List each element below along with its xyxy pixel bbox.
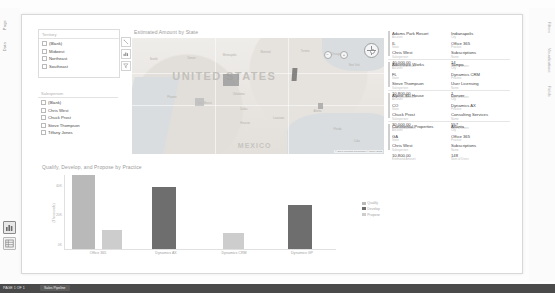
slicer-item[interactable]: Northeast (42, 56, 116, 61)
chart-bar-group: Dynamics GP (268, 175, 336, 249)
map-title: Estimated Amount by State (134, 29, 198, 35)
field-city: Denver City (451, 93, 510, 102)
legend-item[interactable]: Propose (362, 213, 380, 217)
slicer-item[interactable]: Southeast (42, 64, 116, 69)
field-city: Tampa City (451, 62, 510, 71)
field-account: Adventure Works Account (392, 62, 451, 71)
field-practice: Dynamics CRM Practice (451, 72, 510, 81)
pane-tab-fields[interactable]: Fields (540, 86, 552, 97)
focus-mode-icon[interactable] (121, 37, 131, 47)
chart-icon[interactable] (121, 49, 131, 59)
map-place-label: Cuba (354, 140, 360, 143)
slicer-item[interactable]: Chuck Prost (41, 115, 115, 120)
map-canvas[interactable]: UNITED STATES MEXICO Seattle Denver Minn… (132, 38, 384, 154)
rail-tab-data[interactable]: Data (2, 42, 16, 51)
checkbox-icon[interactable] (41, 100, 46, 105)
map-compass-icon[interactable] (364, 43, 379, 58)
slicer-item[interactable]: Midwest (42, 49, 116, 54)
chart-bar-develop[interactable] (152, 187, 175, 249)
map-zoom-in-button[interactable]: + (340, 51, 348, 59)
slicer-item[interactable]: Tiffany Jones (41, 130, 115, 135)
power-bi-desktop-window: Page Data Filters Visualizations Fields … (0, 0, 555, 293)
chart-title: Qualify, Develop, and Propose by Practic… (42, 164, 142, 170)
chart-bar-propose[interactable] (102, 230, 122, 249)
checkbox-icon[interactable] (41, 108, 46, 113)
field-name: User Licensing Name (451, 81, 510, 90)
slicer-territory[interactable]: Territory (Blank) Midwest Northeast Sout… (38, 29, 120, 78)
table-row[interactable]: Adventure Works Account FL State Steve T… (388, 60, 510, 91)
chart-x-tick: Dynamics GP (268, 251, 336, 255)
chart-bar-qualify[interactable] (72, 175, 95, 249)
field-state: FL State (392, 72, 451, 81)
row-accent-bar (388, 62, 390, 87)
map-place-label: New York (349, 64, 360, 67)
map-data-bubble[interactable] (292, 68, 298, 81)
checkbox-icon[interactable] (42, 41, 47, 46)
map-compass-center[interactable] (370, 49, 375, 54)
slicer-territory-title: Territory (39, 30, 119, 39)
map-gridline (288, 38, 289, 154)
bar-chart-visual[interactable]: Qualify, Develop, and Propose by Practic… (38, 163, 384, 263)
field-salesperson: Steve Thompson Salesperson (392, 81, 451, 90)
field-practice: Office 365 Practice (451, 41, 510, 50)
field-practice: Office 365 Practice (451, 134, 510, 143)
legend-item[interactable]: Qualify (362, 201, 380, 205)
field-city: Indianapolis City (451, 31, 510, 40)
checkbox-icon[interactable] (41, 130, 46, 135)
legend-item[interactable]: Develop (362, 207, 380, 211)
account-cards-visual[interactable]: Adams Park Resort Account IL State Chris… (388, 29, 510, 261)
pane-tab-filters[interactable]: Filters (540, 22, 552, 33)
filter-icon[interactable] (121, 61, 131, 71)
checkbox-icon[interactable] (41, 115, 46, 120)
map-ocean-gulf (287, 113, 384, 154)
field-practice: Dynamics AX Practice (451, 103, 510, 112)
map-place-label: Montreal (261, 51, 271, 54)
chart-x-tick: Dynamics CRM (200, 251, 268, 255)
slicer-item[interactable]: Steve Thompson (41, 123, 115, 128)
map-place-label: Denver (187, 57, 195, 60)
map-visual[interactable]: Estimated Amount by State UNITED STATES … (132, 29, 384, 154)
chart-y-axis-label: (Thousands) (52, 203, 56, 222)
slicer-territory-list[interactable]: (Blank) Midwest Northeast Southeast (39, 39, 119, 73)
map-place-label: Dallas (240, 108, 247, 111)
checkbox-icon[interactable] (42, 56, 47, 61)
map-tool-buttons[interactable] (121, 37, 131, 73)
map-data-bubble[interactable] (223, 74, 239, 86)
page-tab[interactable]: Sales Pipeline (40, 285, 70, 291)
pane-tab-visualizations[interactable]: Visualizations (540, 48, 552, 72)
map-place-label: Atlanta (313, 110, 321, 113)
checkbox-icon[interactable] (42, 49, 47, 54)
data-view-icon[interactable] (3, 237, 16, 250)
slicer-salesperson-list[interactable]: (Blank) Chris West Chuck Prost Steve Tho… (38, 98, 118, 140)
table-row[interactable]: Continental Properties Account GA State … (388, 122, 510, 153)
chart-bar-group: Office 365 (64, 175, 132, 249)
slicer-salesperson-title: Salesperson (38, 89, 118, 98)
map-country-label-2: MEXICO (238, 142, 272, 149)
field-num-of-users: 148 Num of Users (451, 153, 510, 162)
table-row[interactable]: Adams Park Resort Account IL State Chris… (388, 29, 510, 60)
rail-tab-page[interactable]: Page (2, 20, 16, 30)
row-right-column: Atlanta City Office 365 Practice Subscri… (451, 124, 510, 162)
chart-bar-group: Dynamics AX (132, 175, 200, 249)
checkbox-icon[interactable] (41, 123, 46, 128)
report-canvas[interactable]: Territory (Blank) Midwest Northeast Sout… (21, 14, 523, 274)
chart-legend[interactable]: Qualify Develop Propose (362, 201, 380, 218)
report-view-icon[interactable] (3, 221, 16, 234)
row-accent-bar (388, 93, 390, 118)
chart-bar-develop[interactable] (288, 205, 311, 249)
map-zoom-out-button[interactable]: − (324, 51, 332, 59)
field-state: CO State (392, 103, 451, 112)
slicer-item[interactable]: Chris West (41, 108, 115, 113)
slicer-item[interactable]: (Blank) (41, 100, 115, 105)
table-row[interactable]: Alpine Ski House Account CO State Chuck … (388, 91, 510, 122)
checkbox-icon[interactable] (42, 64, 47, 69)
left-rail: Page Data (0, 8, 20, 281)
map-data-bubble[interactable] (195, 98, 204, 106)
slicer-salesperson[interactable]: Salesperson (Blank) Chris West Chuck Pro… (38, 89, 118, 131)
map-data-bubble[interactable] (318, 103, 323, 109)
right-rail: Filters Visualizations Fields (529, 8, 555, 281)
slicer-item[interactable]: (Blank) (42, 41, 116, 46)
chart-bar-propose[interactable] (223, 233, 244, 249)
field-salesperson: Chris West Salesperson (392, 143, 451, 152)
legend-swatch-propose (362, 213, 366, 216)
